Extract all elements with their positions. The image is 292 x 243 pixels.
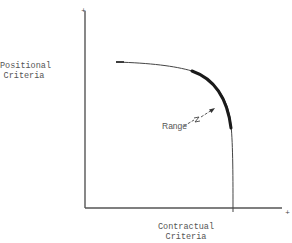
tradeoff-diagram: + + Positional Criteria Contractual Crit… (0, 0, 292, 243)
y-axis-label: Positional Criteria (0, 61, 48, 81)
y-axis-end-marker: + (81, 7, 86, 13)
range-segment (192, 71, 231, 128)
range-label: Range (162, 121, 187, 131)
x-axis-label-line2: Criteria (145, 232, 227, 242)
y-axis-label-line2: Criteria (0, 71, 48, 81)
x-axis-label-line1: Contractual (145, 222, 227, 232)
range-arrow (184, 110, 212, 126)
y-axis-label-line1: Positional (0, 61, 48, 71)
diagram-canvas (0, 0, 292, 243)
tradeoff-curve (116, 62, 233, 212)
x-axis-end-marker: + (285, 209, 290, 215)
zigzag-mark (194, 117, 200, 122)
x-axis-label: Contractual Criteria (145, 222, 227, 242)
arrowhead-icon (209, 108, 215, 113)
